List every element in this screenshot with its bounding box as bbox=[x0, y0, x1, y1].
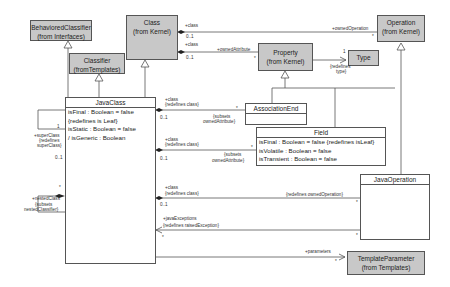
class-package: (from Kernel) bbox=[259, 57, 312, 66]
constraint-label: {redefines class} bbox=[165, 191, 199, 196]
class-template-parameter[interactable]: TemplateParameter (from Templates) bbox=[347, 251, 425, 275]
constraint-label: {redefines class} bbox=[165, 102, 199, 107]
attribute: isStatic : Boolean = false bbox=[66, 125, 155, 134]
class-association-end[interactable]: AssociationEnd bbox=[245, 103, 307, 125]
class-name: Type bbox=[349, 53, 378, 62]
class-package: (from Interfaces) bbox=[31, 32, 91, 41]
class-name: AssociationEnd bbox=[246, 104, 306, 114]
class-name: Classifier bbox=[70, 56, 124, 65]
attribute: isFinal : Boolean = false {redefines isL… bbox=[257, 138, 385, 147]
role-label: +class bbox=[185, 42, 198, 47]
constraint-label: nestedClassifier} bbox=[24, 207, 58, 212]
class-class[interactable]: Class (from Kernel) bbox=[126, 15, 178, 60]
attribute: {redefines is Leaf} bbox=[66, 117, 155, 126]
class-java-operation[interactable]: JavaOperation bbox=[360, 174, 430, 240]
multiplicity-label: * bbox=[372, 34, 374, 39]
class-classifier[interactable]: Classifier (fromTemplates) bbox=[69, 53, 125, 74]
multiplicity-label: 0..1 bbox=[186, 34, 194, 39]
multiplicity-label: * bbox=[356, 200, 358, 205]
class-type[interactable]: Type bbox=[348, 50, 379, 66]
constraint-label: ownedAttribute} bbox=[203, 119, 235, 124]
multiplicity-label: 0..1 bbox=[186, 55, 194, 60]
class-name: TemplateParameter bbox=[348, 254, 424, 263]
role-label: +class bbox=[185, 23, 198, 28]
multiplicity-label: * bbox=[236, 106, 238, 111]
multiplicity-label: 0..1 bbox=[160, 156, 168, 161]
constraint-label: {redefines class} bbox=[165, 142, 199, 147]
class-name: BehavioredClassifier bbox=[31, 23, 91, 32]
class-name: JavaOperation bbox=[361, 175, 429, 185]
role-label: +ownedAttribute bbox=[217, 47, 250, 52]
role-label: +javaExceptions bbox=[163, 216, 197, 221]
constraint-label: type} bbox=[336, 69, 346, 74]
role-label: +nestedClass bbox=[32, 196, 60, 201]
attribute: isTransient : Boolean = false bbox=[257, 155, 385, 164]
class-name: Property bbox=[259, 48, 312, 57]
class-java-class[interactable]: JavaClass isFinal : Boolean = false {red… bbox=[65, 97, 156, 264]
multiplicity-label: * bbox=[356, 233, 358, 238]
role-label: +class bbox=[165, 185, 178, 190]
attribute: isVolatile : Boolean = false bbox=[257, 147, 385, 156]
multiplicity-label: * bbox=[59, 185, 61, 190]
constraint-label: {redefines ownedOperation} bbox=[286, 192, 343, 197]
class-field[interactable]: Field isFinal : Boolean = false {redefin… bbox=[256, 127, 386, 166]
class-name: Operation bbox=[378, 18, 424, 27]
constraint-label: ownedAttribute} bbox=[212, 158, 244, 163]
constraint-label: superClass} bbox=[37, 143, 62, 148]
multiplicity-label: * bbox=[162, 235, 164, 240]
class-name: JavaClass bbox=[66, 98, 155, 108]
constraint-label: {redefines raisedException} bbox=[163, 223, 219, 228]
multiplicity-label: 0..1 bbox=[55, 155, 63, 160]
class-package: (from Kernel) bbox=[127, 27, 177, 36]
role-label: +ownedOperation bbox=[332, 26, 368, 31]
multiplicity-label: * bbox=[254, 56, 256, 61]
multiplicity-label: * bbox=[251, 145, 253, 150]
multiplicity-label: 0..1 bbox=[160, 202, 168, 207]
class-name: Field bbox=[257, 128, 385, 138]
role-label: +parameters bbox=[305, 249, 331, 254]
class-package: (from Kernel) bbox=[378, 27, 424, 36]
multiplicity-label: * bbox=[335, 259, 337, 264]
class-behaviored-classifier[interactable]: BehavioredClassifier (from Interfaces) bbox=[30, 20, 92, 41]
class-operation[interactable]: Operation (from Kernel) bbox=[377, 15, 425, 42]
class-name: Class bbox=[127, 18, 177, 27]
attribute: / isGeneric : Boolean bbox=[66, 134, 155, 143]
multiplicity-label: 1 bbox=[343, 49, 346, 54]
attribute: isFinal : Boolean = false bbox=[66, 108, 155, 117]
class-package: (fromTemplates) bbox=[70, 65, 124, 74]
constraint-label: {subsets bbox=[224, 152, 241, 157]
class-package: (from Templates) bbox=[348, 263, 424, 272]
class-property[interactable]: Property (from Kernel) bbox=[258, 43, 313, 71]
multiplicity-label: 1 bbox=[57, 124, 60, 129]
multiplicity-label: 0..1 bbox=[160, 115, 168, 120]
